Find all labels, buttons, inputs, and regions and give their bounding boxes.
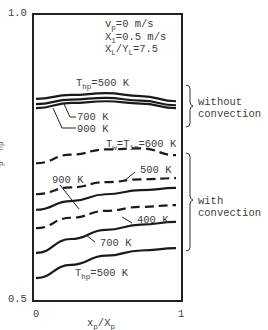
label-bot-thp-500: Thp=500 K bbox=[75, 268, 128, 280]
brace-without-convection bbox=[186, 85, 193, 127]
y-tick-1.0: 1.0 bbox=[8, 8, 27, 19]
label-top-900: 900 K bbox=[77, 124, 109, 135]
annotation-with: with bbox=[198, 196, 223, 207]
label-tw-600: Tw=Tin=600 K bbox=[106, 139, 176, 151]
annotation-without: without bbox=[198, 97, 242, 108]
y-axis-label: T4p/T4hp bbox=[0, 142, 4, 171]
label-dash-500: 500 K bbox=[140, 165, 172, 176]
y-tick-0.5: 0.5 bbox=[8, 294, 27, 305]
annotation-with-convection: convection bbox=[198, 208, 261, 219]
x-tick-0: 0 bbox=[33, 309, 39, 320]
x-tick-1: 1 bbox=[178, 309, 184, 320]
label-solid-900: 900 K bbox=[52, 175, 84, 186]
label-top-thp-500: Thp=500 K bbox=[76, 78, 129, 90]
annotation-without-convection: convection bbox=[198, 109, 261, 120]
label-solid-700: 700 K bbox=[100, 238, 132, 249]
x-axis-label: xp/Xp bbox=[87, 318, 115, 330]
param-vp: vp=0 m/s bbox=[105, 19, 154, 31]
curve-5 bbox=[36, 188, 176, 210]
label-top-700: 700 K bbox=[77, 112, 109, 123]
brace-with-convection bbox=[186, 153, 193, 251]
label-dash-400: 400 K bbox=[137, 215, 169, 226]
param-xl-yl: XL/YL=7.5 bbox=[105, 44, 158, 56]
